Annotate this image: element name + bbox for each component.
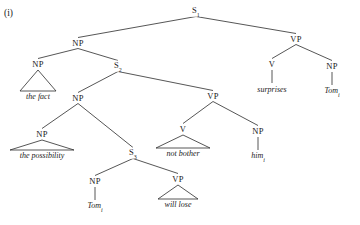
tree-edge bbox=[78, 72, 118, 93]
terminal-label: Tomi bbox=[87, 202, 102, 212]
terminal-label: the fact bbox=[26, 93, 50, 101]
tree-edge bbox=[95, 159, 133, 176]
tree-edge bbox=[183, 102, 213, 124]
terminal-subscript: i bbox=[338, 92, 340, 98]
tree-node-np_top: NP bbox=[71, 39, 84, 48]
tree-edge bbox=[78, 104, 133, 148]
tree-triangle bbox=[158, 185, 198, 199]
tree-node-vp_lo: VP bbox=[171, 175, 184, 184]
tree-node-np_poss: NP bbox=[35, 130, 48, 139]
terminal-label: not bother bbox=[166, 150, 199, 158]
tree-triangle bbox=[20, 70, 56, 91]
syntax-tree-figure: (i) the factthe possibilitynot botherwil… bbox=[0, 0, 360, 225]
tree-node-v_surp: V bbox=[268, 60, 276, 69]
tree-node-subscript: 3 bbox=[134, 153, 137, 159]
tree-edge bbox=[196, 17, 296, 34]
tree-edge bbox=[42, 104, 78, 129]
tree-edge bbox=[78, 17, 196, 38]
tree-triangle bbox=[156, 135, 210, 148]
tree-node-subscript: 1 bbox=[197, 11, 200, 17]
terminal-subscript: i bbox=[101, 207, 103, 213]
tree-edge bbox=[213, 102, 258, 126]
tree-node-np_tom_lo: NP bbox=[88, 177, 101, 186]
terminal-label: the possibility bbox=[20, 152, 65, 160]
tree-edge bbox=[118, 72, 213, 91]
terminal-label: surprises bbox=[257, 86, 286, 94]
terminal-label: himi bbox=[251, 152, 265, 162]
tree-edge bbox=[38, 49, 78, 59]
tree-node-subscript: 2 bbox=[119, 66, 122, 72]
terminal-label: will lose bbox=[165, 201, 192, 209]
tree-node-np_tom_hi: NP bbox=[325, 62, 338, 71]
tree-edge bbox=[133, 159, 178, 174]
tree-edge bbox=[296, 45, 332, 61]
tree-node-vp_top: VP bbox=[289, 35, 302, 44]
terminal-label: Tomi bbox=[324, 87, 339, 97]
tree-node-vp_mid: VP bbox=[206, 92, 219, 101]
tree-node-s2: S2 bbox=[113, 61, 123, 72]
tree-node-s3: S3 bbox=[128, 148, 138, 159]
tree-edge bbox=[272, 45, 296, 59]
tree-node-np_fact: NP bbox=[31, 60, 44, 69]
terminal-subscript: i bbox=[263, 157, 265, 163]
tree-triangle bbox=[10, 140, 74, 150]
tree-lines-svg bbox=[0, 0, 360, 225]
tree-node-v_bother: V bbox=[179, 125, 187, 134]
tree-node-np_mid: NP bbox=[71, 94, 84, 103]
tree-stems-group bbox=[95, 70, 332, 200]
tree-node-s1: S1 bbox=[191, 6, 201, 17]
tree-node-np_him: NP bbox=[251, 127, 264, 136]
tree-edge bbox=[78, 49, 118, 61]
